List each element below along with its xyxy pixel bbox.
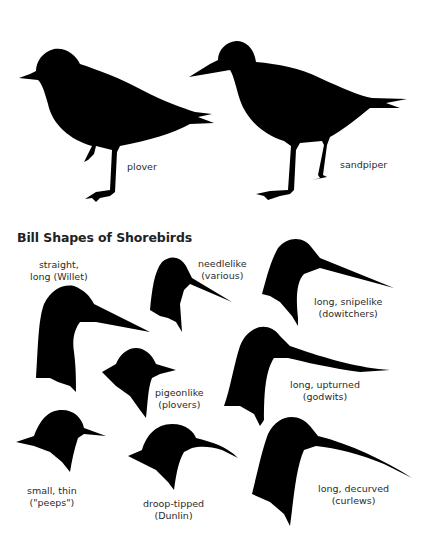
decurved-head-icon <box>0 0 433 539</box>
decurved-label: long, decurved (curlews) <box>318 483 389 507</box>
